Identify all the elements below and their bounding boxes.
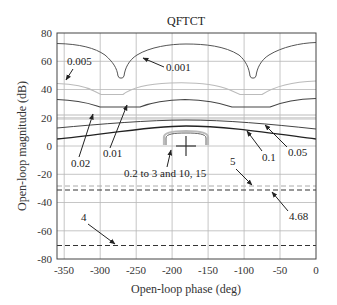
svg-text:-40: -40 xyxy=(37,196,52,208)
svg-text:-80: -80 xyxy=(37,253,52,265)
curve-001 xyxy=(57,99,316,108)
chart-title: QFTCT xyxy=(167,14,206,28)
svg-text:40: 40 xyxy=(41,83,53,95)
svg-text:80: 80 xyxy=(41,27,53,39)
annotation-005: 0.05 xyxy=(288,146,308,158)
curve-0005 xyxy=(57,81,316,95)
svg-text:-100: -100 xyxy=(234,264,255,276)
annotation-01: 0.1 xyxy=(262,151,276,163)
svg-text:-300: -300 xyxy=(90,264,111,276)
annotation-4: 4 xyxy=(81,211,87,223)
annotation-0005: 0.005 xyxy=(67,55,92,67)
annotation-5: 5 xyxy=(230,155,236,167)
svg-text:-20: -20 xyxy=(37,168,52,180)
svg-text:-350: -350 xyxy=(54,264,75,276)
svg-text:-60: -60 xyxy=(37,225,52,237)
svg-text:0: 0 xyxy=(313,264,319,276)
nichols-chart: QFTCT xyxy=(0,0,337,305)
y-tick-labels: 80 60 40 20 0 -20 -40 -60 -80 xyxy=(37,27,52,265)
svg-text:-250: -250 xyxy=(126,264,147,276)
svg-text:-50: -50 xyxy=(273,264,288,276)
annotation-002: 0.02 xyxy=(71,157,90,169)
y-axis-label: Open-loop magnitude (dB) xyxy=(15,81,29,211)
svg-text:20: 20 xyxy=(41,112,53,124)
x-axis-label: Open-loop phase (deg) xyxy=(131,282,241,296)
x-tick-labels: -350 -300 -250 -200 -150 -100 -50 0 xyxy=(54,264,319,276)
svg-text:0: 0 xyxy=(47,140,53,152)
svg-text:-150: -150 xyxy=(198,264,219,276)
curve-005 xyxy=(57,120,316,129)
svg-text:60: 60 xyxy=(41,55,53,67)
annotation-0001: 0.001 xyxy=(166,61,191,73)
annotation-001: 0.01 xyxy=(103,147,122,159)
annotation-468: 4.68 xyxy=(289,210,309,222)
annotation-range: 0.2 to 3 and 10, 15 xyxy=(124,167,207,179)
svg-text:-200: -200 xyxy=(162,264,183,276)
